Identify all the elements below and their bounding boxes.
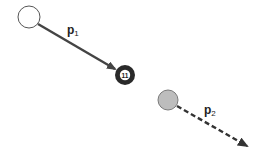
label-p1: p1 xyxy=(67,24,79,38)
svg-text:11: 11 xyxy=(122,72,129,79)
collision-diagram: 11 xyxy=(0,0,261,160)
eleven-ball: 11 xyxy=(115,65,135,85)
target-ball xyxy=(158,90,178,110)
cue-ball xyxy=(18,6,40,28)
label-p2: p2 xyxy=(204,104,216,118)
